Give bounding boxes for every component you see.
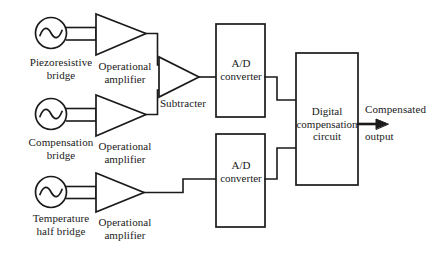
label-subtracter: Subtracter (145, 97, 221, 110)
block-diagram: Piezoresistive bridge Operational amplif… (0, 0, 443, 255)
label-ad-converter-2: A/D converter (216, 159, 266, 184)
wire-adc2-dcc (265, 148, 296, 179)
triangle-amplifier-icon (96, 95, 146, 136)
ac-source-icon (36, 99, 67, 130)
label-output: output (365, 130, 443, 143)
label-operational-amplifier-3: Operational amplifier (84, 216, 166, 241)
ac-source-icon (36, 177, 67, 208)
label-ad-converter-1: A/D converter (216, 57, 266, 82)
wire-amp3-adc2 (144, 179, 216, 193)
ac-source-icon (36, 18, 67, 49)
arrow-right-icon (358, 119, 388, 129)
triangle-amplifier-icon (96, 14, 146, 55)
label-digital-compensation-circuit: Digital compensation circuit (294, 105, 360, 143)
label-compensated: Compensated (365, 103, 443, 116)
label-operational-amplifier-1: Operational amplifier (84, 60, 166, 85)
label-operational-amplifier-2: Operational amplifier (84, 140, 166, 165)
wire-adc1-dcc (265, 77, 296, 100)
triangle-amplifier-icon (96, 173, 144, 212)
